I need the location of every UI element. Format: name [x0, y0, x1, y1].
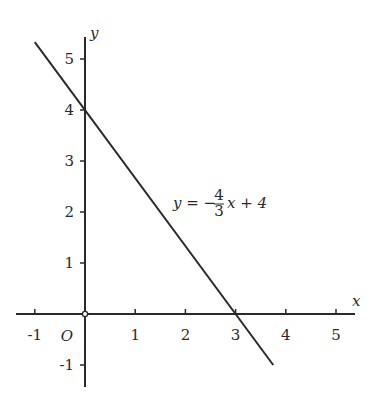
x-tick-label: 2 — [181, 326, 191, 344]
origin-label: O — [61, 327, 73, 345]
x-tick-label: 4 — [281, 326, 291, 344]
y-axis-label: y — [89, 24, 99, 42]
origin-marker — [82, 311, 87, 316]
x-tick-label: 1 — [130, 326, 140, 344]
x-tick-label: -1 — [27, 326, 42, 344]
x-axis-label: x — [352, 292, 361, 310]
equation-lhs: y = − — [172, 194, 216, 212]
line-graph: -112345-112345xyOy = −43x + 4 — [0, 0, 376, 399]
y-tick-label: 5 — [64, 50, 74, 68]
y-tick-label: 3 — [64, 152, 74, 170]
y-tick-label: 4 — [64, 101, 74, 119]
y-tick-label: 2 — [64, 203, 74, 221]
x-tick-label: 5 — [331, 326, 341, 344]
x-tick-label: 3 — [231, 326, 241, 344]
y-tick-label: 1 — [64, 254, 74, 272]
equation-denominator: 3 — [214, 202, 224, 220]
y-tick-label: -1 — [59, 356, 74, 374]
equation-rhs: x + 4 — [227, 194, 267, 212]
